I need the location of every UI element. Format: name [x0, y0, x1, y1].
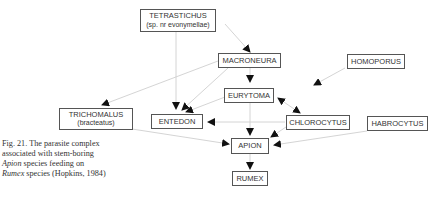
node-tetrastichus: TETRASTICHUS (sp. nr evonymellae)	[140, 9, 216, 32]
node-habrocytus: HABROCYTUS	[367, 116, 428, 131]
edge-habrocytus-apion	[274, 131, 367, 145]
node-label: APION	[238, 141, 261, 150]
node-label: EURYTOMA	[228, 91, 270, 100]
node-label: HOMOPORUS	[351, 57, 401, 66]
node-eurytoma: EURYTOMA	[224, 88, 274, 103]
edge-macroneura-entedon	[182, 68, 228, 110]
node-label: TRICHOMALUS	[69, 110, 124, 119]
edge-macroneura-trichomalus	[102, 61, 218, 105]
caption-italic: Rumex	[2, 169, 24, 178]
node-entedon: ENTEDON	[151, 114, 203, 129]
node-homoporus: HOMOPORUS	[347, 54, 405, 69]
node-trichomalus: TRICHOMALUS (bracteatus)	[59, 108, 133, 130]
caption-line: associated with stem-boring	[2, 149, 132, 159]
edge-tetrastichus-macroneura	[225, 24, 250, 52]
caption-line: Apion species feeding on	[2, 159, 132, 169]
node-apion: APION	[231, 138, 269, 154]
edge-eurytoma-chlorocytus	[278, 98, 300, 113]
figure-caption: Fig. 21. The parasite complex associated…	[2, 139, 132, 179]
edge-homoporus-eurytoma	[314, 68, 345, 85]
node-label: RUMEX	[236, 174, 263, 183]
caption-line: Rumex species (Hopkins, 1984)	[2, 169, 132, 179]
node-label: MACRONEURA	[222, 56, 276, 65]
node-sublabel: (sp. nr evonymellae)	[146, 21, 209, 30]
caption-line: Fig. 21. The parasite complex	[2, 139, 132, 149]
edge-trichomalus-apion	[132, 129, 229, 144]
node-chlorocytus: CHLOROCYTUS	[286, 115, 350, 130]
caption-text: species feeding on	[22, 159, 85, 168]
node-label: CHLOROCYTUS	[289, 118, 347, 127]
node-sublabel: (bracteatus)	[77, 119, 114, 128]
edge-eurytoma-entedon	[186, 97, 225, 112]
node-macroneura: MACRONEURA	[218, 53, 281, 68]
node-label: TETRASTICHUS	[149, 11, 207, 20]
node-rumex: RUMEX	[232, 171, 268, 186]
caption-text: species (Hopkins, 1984)	[24, 169, 105, 178]
node-label: ENTEDON	[159, 117, 196, 126]
node-label: HABROCYTUS	[371, 119, 423, 128]
caption-italic: Apion	[2, 159, 22, 168]
